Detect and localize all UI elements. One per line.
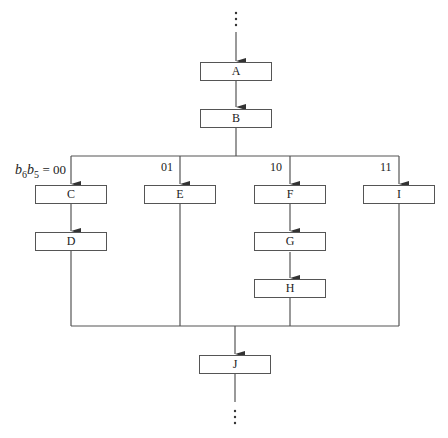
node-j-label: J xyxy=(233,357,238,372)
node-e: E xyxy=(144,185,216,204)
branch-label-01: 01 xyxy=(161,160,173,175)
node-a-label: A xyxy=(232,64,241,79)
node-j: J xyxy=(199,355,271,374)
node-f: F xyxy=(254,185,326,204)
branch-label-10: 10 xyxy=(270,160,282,175)
node-g: G xyxy=(254,232,326,251)
node-i-label: I xyxy=(397,187,401,202)
node-i: I xyxy=(363,185,435,204)
node-b-label: B xyxy=(232,111,240,126)
value-00: = 00 xyxy=(43,162,67,177)
node-h: H xyxy=(254,279,326,298)
var-b: b xyxy=(27,162,34,177)
node-c: C xyxy=(35,185,107,204)
node-e-label: E xyxy=(176,187,183,202)
var-b: b xyxy=(15,162,22,177)
branch-label-00: b6b5 = 00 xyxy=(15,162,66,180)
node-d-label: D xyxy=(67,234,76,249)
node-c-label: C xyxy=(67,187,75,202)
node-h-label: H xyxy=(286,281,295,296)
subscript-5: 5 xyxy=(34,169,39,180)
flowchart-diagram: A B C E F I D G H J b6b5 = 00 01 10 11 xyxy=(0,0,448,438)
node-b: B xyxy=(200,109,272,128)
node-g-label: G xyxy=(286,234,295,249)
node-a: A xyxy=(200,62,272,81)
branch-label-11: 11 xyxy=(380,160,392,175)
node-d: D xyxy=(35,232,107,251)
node-f-label: F xyxy=(287,187,294,202)
